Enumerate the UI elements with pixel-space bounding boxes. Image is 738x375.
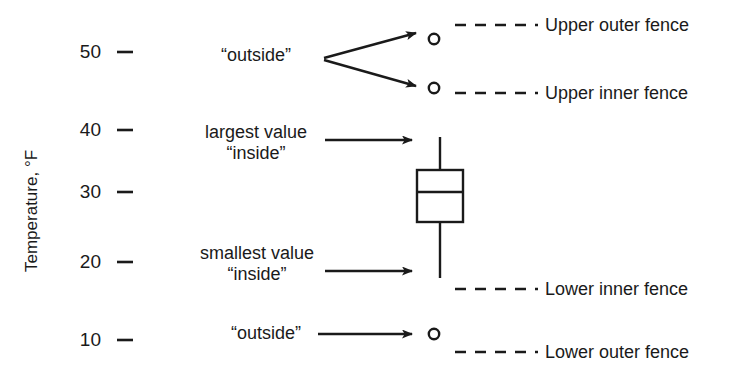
y-axis-title: Temperature, °F	[22, 150, 42, 272]
box-plot-glyph	[417, 137, 463, 278]
y-tick-label-30: 30	[55, 181, 101, 203]
outlier-point-upper-near	[429, 83, 439, 93]
label-upper-outer-fence: Upper outer fence	[545, 15, 689, 36]
label-lower-inner-fence: Lower inner fence	[545, 279, 688, 300]
interquartile-box	[417, 170, 463, 222]
annotation-smallest-value-inside: smallest value “inside”	[174, 243, 340, 284]
annotation-largest-value-inside: largest value “inside”	[176, 122, 336, 163]
y-tick-label-10: 10	[55, 329, 101, 351]
axis-tick-marks	[117, 52, 133, 340]
outlier-point-lower	[429, 329, 439, 339]
annotation-outside-lower: “outside”	[196, 323, 336, 344]
y-tick-label-40: 40	[55, 119, 101, 141]
arrow-to-upper-far-outlier	[324, 33, 416, 58]
arrow-to-upper-near-outlier	[324, 60, 416, 86]
outlier-point-upper-far	[429, 34, 439, 44]
box-plot-graphics	[0, 0, 738, 375]
fence-lines	[455, 25, 538, 352]
y-tick-label-50: 50	[55, 41, 101, 63]
y-tick-label-20: 20	[55, 251, 101, 273]
annotation-arrows	[318, 33, 416, 334]
label-upper-inner-fence: Upper inner fence	[545, 83, 688, 104]
annotation-outside-upper: “outside”	[186, 45, 326, 66]
box-plot-figure: Temperature, °F 50 40 30 20 10 “outside”…	[0, 0, 738, 375]
label-lower-outer-fence: Lower outer fence	[545, 342, 689, 363]
